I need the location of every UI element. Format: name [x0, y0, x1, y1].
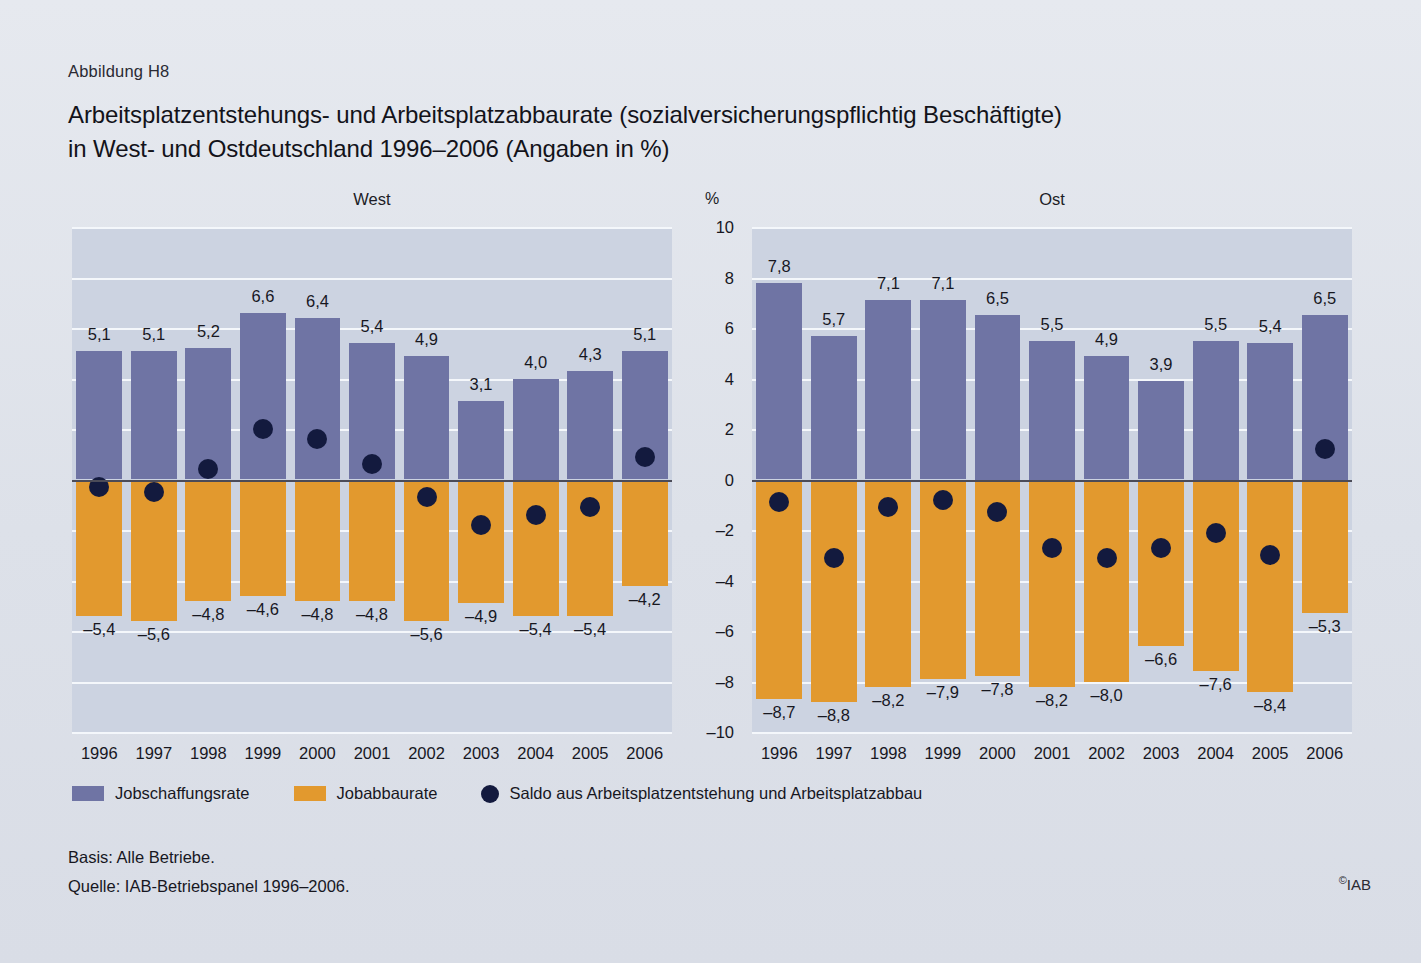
bar-job-creation[interactable]: [756, 283, 802, 480]
legend-item-job-creation: Jobschaffungsrate: [72, 784, 250, 803]
axis-unit-label: %: [686, 190, 738, 208]
bar-job-destruction[interactable]: [513, 480, 559, 616]
bar-job-creation[interactable]: [1138, 381, 1184, 479]
bar-value-label-positive: 5,4: [361, 317, 384, 336]
saldo-dot[interactable]: [144, 482, 164, 502]
copyright-notice: ©IAB: [1339, 874, 1371, 893]
bar-job-destruction[interactable]: [76, 480, 122, 616]
panel-caption-ost: Ost: [752, 190, 1352, 209]
saldo-dot[interactable]: [987, 502, 1007, 522]
saldo-dot[interactable]: [471, 515, 491, 535]
saldo-dot[interactable]: [526, 505, 546, 525]
legend-label-job-creation: Jobschaffungsrate: [115, 784, 250, 803]
bar-job-destruction[interactable]: [458, 480, 504, 604]
bar-job-creation[interactable]: [920, 300, 966, 479]
copyright-symbol: ©: [1339, 874, 1347, 886]
x-axis-tick: 2001: [1034, 744, 1071, 763]
bar-job-creation[interactable]: [404, 356, 450, 480]
bar-value-label-positive: 5,4: [1259, 317, 1282, 336]
plot-area-ost: 7,8–8,75,7–8,87,1–8,27,1–7,96,5–7,85,5–8…: [752, 227, 1352, 732]
bar-job-creation[interactable]: [1193, 341, 1239, 480]
bar-value-label-negative: –7,6: [1200, 675, 1232, 694]
x-axis-tick: 1998: [190, 744, 227, 763]
footer-notes: Basis: Alle Betriebe. Quelle: IAB-Betrie…: [68, 843, 350, 901]
y-axis-tick: –10: [706, 723, 734, 742]
bar-job-destruction[interactable]: [1302, 480, 1348, 614]
saldo-dot[interactable]: [362, 454, 382, 474]
bar-value-label-positive: 5,5: [1204, 315, 1227, 334]
bar-job-destruction[interactable]: [1247, 480, 1293, 692]
bar-value-label-negative: –8,2: [1036, 691, 1068, 710]
saldo-dot[interactable]: [635, 447, 655, 467]
footer-basis: Basis: Alle Betriebe.: [68, 843, 350, 872]
legend-label-saldo: Saldo aus Arbeitsplatzentstehung und Arb…: [509, 784, 922, 803]
saldo-dot[interactable]: [307, 429, 327, 449]
saldo-dot[interactable]: [1206, 523, 1226, 543]
bar-job-destruction[interactable]: [240, 480, 286, 596]
saldo-dot[interactable]: [769, 492, 789, 512]
panel-caption-west: West: [72, 190, 672, 209]
bar-job-destruction[interactable]: [756, 480, 802, 700]
bar-value-label-negative: –8,0: [1090, 686, 1122, 705]
bar-job-creation[interactable]: [76, 351, 122, 480]
bar-value-label-positive: 5,2: [197, 322, 220, 341]
bar-job-creation[interactable]: [811, 336, 857, 480]
x-axis-tick: 2002: [1088, 744, 1125, 763]
bar-value-label-positive: 4,9: [1095, 330, 1118, 349]
bar-job-destruction[interactable]: [1029, 480, 1075, 687]
bar-value-label-negative: –4,8: [192, 605, 224, 624]
bar-job-creation[interactable]: [975, 315, 1021, 479]
bar-job-creation[interactable]: [865, 300, 911, 479]
bar-job-creation[interactable]: [567, 371, 613, 480]
saldo-dot[interactable]: [1260, 545, 1280, 565]
saldo-dot[interactable]: [878, 497, 898, 517]
legend-swatch-job-creation: [72, 786, 104, 801]
y-axis: 1086420–2–4–6–8–10: [686, 227, 738, 732]
bar-value-label-positive: 5,1: [633, 325, 656, 344]
bar-job-destruction[interactable]: [185, 480, 231, 601]
x-axis-tick: 1997: [815, 744, 852, 763]
y-axis-tick: 10: [716, 218, 734, 237]
bar-job-destruction[interactable]: [811, 480, 857, 702]
bar-job-destruction[interactable]: [1138, 480, 1184, 647]
saldo-dot[interactable]: [824, 548, 844, 568]
bar-job-creation[interactable]: [513, 379, 559, 480]
bar-value-label-negative: –8,8: [818, 706, 850, 725]
figure-title-line1: Arbeitsplatzentstehungs- und Arbeitsplat…: [68, 101, 1062, 128]
bar-value-label-negative: –7,8: [981, 680, 1013, 699]
bar-job-creation[interactable]: [295, 318, 341, 480]
bar-job-creation[interactable]: [458, 401, 504, 479]
bar-job-destruction[interactable]: [1084, 480, 1130, 682]
bar-job-creation[interactable]: [240, 313, 286, 480]
bar-value-label-positive: 6,5: [986, 289, 1009, 308]
bar-value-label-negative: –5,6: [410, 625, 442, 644]
saldo-dot[interactable]: [1315, 439, 1335, 459]
saldo-dot[interactable]: [1042, 538, 1062, 558]
saldo-dot[interactable]: [253, 419, 273, 439]
saldo-dot[interactable]: [417, 487, 437, 507]
bar-job-destruction[interactable]: [1193, 480, 1239, 672]
figure-page: Abbildung H8 Arbeitsplatzentstehungs- un…: [0, 0, 1421, 963]
bar-job-destruction[interactable]: [622, 480, 668, 586]
bar-job-creation[interactable]: [1084, 356, 1130, 480]
y-axis-tick: 8: [725, 268, 734, 287]
saldo-dot[interactable]: [580, 497, 600, 517]
bar-value-label-positive: 4,3: [579, 345, 602, 364]
saldo-dot[interactable]: [198, 459, 218, 479]
copyright-owner: IAB: [1347, 876, 1371, 893]
bar-value-label-negative: –4,8: [356, 605, 388, 624]
saldo-dot[interactable]: [933, 490, 953, 510]
saldo-dot[interactable]: [1151, 538, 1171, 558]
bar-job-destruction[interactable]: [295, 480, 341, 601]
legend-swatch-job-destruction: [294, 786, 326, 801]
bar-value-label-positive: 3,9: [1150, 355, 1173, 374]
bar-job-creation[interactable]: [1029, 341, 1075, 480]
legend-label-job-destruction: Jobabbaurate: [337, 784, 438, 803]
saldo-dot[interactable]: [1097, 548, 1117, 568]
y-axis-tick: 0: [725, 470, 734, 489]
bar-job-destruction[interactable]: [349, 480, 395, 601]
x-axis-tick: 2003: [1143, 744, 1180, 763]
bar-job-creation[interactable]: [1247, 343, 1293, 479]
bar-value-label-positive: 6,6: [251, 287, 274, 306]
bar-job-creation[interactable]: [131, 351, 177, 480]
